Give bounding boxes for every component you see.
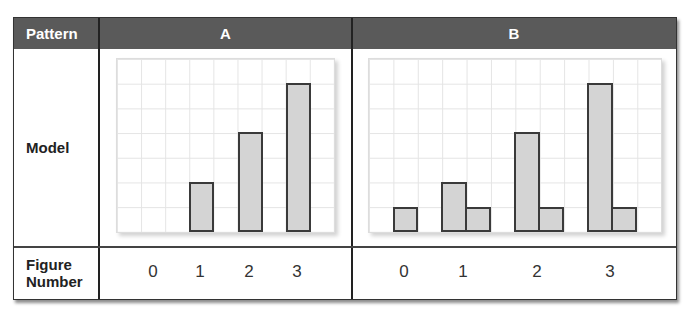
bar-b-fig2-column [514,132,540,232]
bar-b-fig1-square [465,207,491,232]
row-divider [14,246,676,248]
bar-a-fig3 [286,83,311,232]
figure-number-a-2: 2 [244,262,253,282]
chart-pattern-a [116,58,335,233]
bar-b-fig3-column [587,83,613,232]
bar-a-fig1 [189,182,214,232]
bar-b-fig1-column [441,182,467,232]
column-divider [351,18,353,299]
figure-number-b-3: 3 [605,262,614,282]
figure-label-line2: Number [26,273,83,290]
chart-pattern-b [368,58,662,233]
header-a: A [99,18,352,49]
figure-label-line1: Figure [26,256,72,273]
header-b: B [352,18,676,49]
bar-b-fig2-square [538,207,564,232]
figure-number-a-1: 1 [195,262,204,282]
figure-number-a-0: 0 [148,262,157,282]
row-label-model: Model [14,49,99,246]
figure-number-a-3: 3 [292,262,301,282]
figure-number-b-2: 2 [532,262,541,282]
bar-b-fig3-square [611,207,637,232]
pattern-table: Pattern A B Model Figure Number 0 1 2 3 … [13,17,677,300]
bar-a-fig2 [238,132,263,232]
row-label-figure-number: Figure Number [14,247,99,299]
header-pattern: Pattern [14,18,99,49]
figure-number-b-1: 1 [458,262,467,282]
figure-number-b-0: 0 [399,262,408,282]
bar-b-fig0-square [393,207,418,232]
